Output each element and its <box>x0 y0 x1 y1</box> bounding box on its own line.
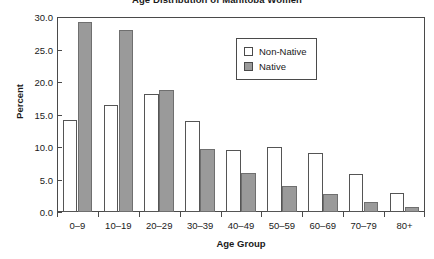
legend-swatch-native <box>244 62 253 71</box>
y-tick-label: 25.0 <box>13 44 53 55</box>
x-tick-mark <box>343 212 344 217</box>
x-tick-mark <box>261 212 262 217</box>
x-tick-mark <box>139 212 140 217</box>
bar-non-native <box>63 120 78 212</box>
x-tick-mark <box>221 212 222 217</box>
y-tick-label: 0.0 <box>13 207 53 218</box>
y-tick-mark <box>57 115 62 116</box>
chart-legend: Non-Native Native <box>236 38 317 80</box>
legend-label-native: Native <box>259 61 286 72</box>
y-tick-label: 20.0 <box>13 77 53 88</box>
bar-non-native <box>390 193 405 213</box>
x-tick-mark <box>302 212 303 217</box>
x-tick-mark <box>180 212 181 217</box>
y-tick-mark <box>57 17 62 18</box>
legend-item-native: Native <box>244 59 307 74</box>
legend-swatch-non-native <box>244 47 253 56</box>
bar-non-native <box>349 174 364 212</box>
bar-native <box>282 186 297 212</box>
bar-native <box>119 30 134 212</box>
y-tick-label: 15.0 <box>13 109 53 120</box>
legend-label-non-native: Non-Native <box>259 46 307 57</box>
chart-title: Age Distribution of Manitoba Women <box>0 0 434 5</box>
y-tick-label: 30.0 <box>13 12 53 23</box>
y-tick-mark <box>57 180 62 181</box>
bar-non-native <box>308 153 323 212</box>
x-axis-label: Age Group <box>57 238 425 249</box>
bar-native <box>200 149 215 212</box>
bar-non-native <box>226 150 241 212</box>
bar-non-native <box>104 105 119 212</box>
x-tick-mark <box>424 212 425 217</box>
y-tick-mark <box>57 147 62 148</box>
x-tick-mark <box>384 212 385 217</box>
bar-native <box>78 22 93 212</box>
chart-figure: Age Distribution of Manitoba Women Perce… <box>0 0 434 259</box>
bar-native <box>159 90 174 212</box>
y-tick-mark <box>57 50 62 51</box>
bar-native <box>241 173 256 212</box>
bar-non-native <box>267 147 282 212</box>
bar-native <box>323 194 338 212</box>
x-tick-mark <box>98 212 99 217</box>
x-tick-mark <box>57 212 58 217</box>
legend-item-non-native: Non-Native <box>244 44 307 59</box>
y-tick-label: 10.0 <box>13 142 53 153</box>
x-tick-label: 80+ <box>375 220 434 231</box>
y-tick-mark <box>57 82 62 83</box>
bar-non-native <box>185 121 200 212</box>
bar-native <box>405 207 420 212</box>
bar-native <box>364 202 379 212</box>
bar-non-native <box>144 94 159 212</box>
y-tick-label: 5.0 <box>13 174 53 185</box>
